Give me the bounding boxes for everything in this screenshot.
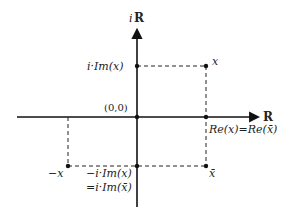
point-x: [204, 64, 208, 68]
x-label: x: [212, 55, 219, 68]
im-x-bar-label: =i·Im(x̄): [86, 181, 132, 194]
point-neg-x: [66, 164, 70, 168]
neg-x-label: −x: [48, 167, 64, 180]
origin-label: (0,0): [104, 102, 128, 113]
point-neg-im-x: [135, 164, 139, 168]
real-axis-label: R: [263, 110, 274, 124]
imag-axis-label: R: [134, 11, 145, 25]
point-re-x: [204, 115, 208, 119]
point-im-x: [135, 64, 139, 68]
im-x-label: i·Im(x): [87, 60, 124, 73]
x-bar-label: x̄: [209, 167, 216, 180]
complex-plane-diagram: i R R (0,0) i·Im(x) x Re(x)=Re(x̄) x̄ −x…: [0, 0, 292, 216]
point-origin: [135, 115, 139, 119]
re-equality-label: Re(x)=Re(x̄): [208, 123, 277, 136]
neg-im-x-label: −i·Im(x): [86, 167, 132, 180]
imag-axis-prefix: i: [129, 12, 133, 25]
point-x-bar: [204, 164, 208, 168]
